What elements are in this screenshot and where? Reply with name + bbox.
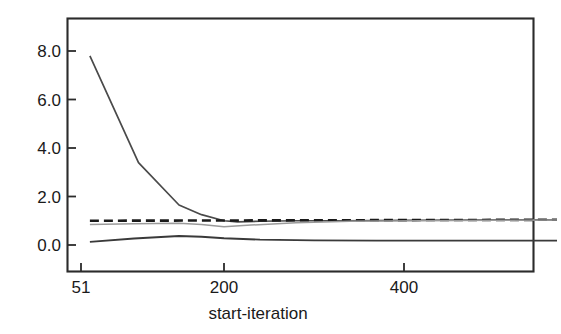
chart-figure: 0.0 2.0 4.0 6.0 8.0 51 200 400 start-ite… [0,0,561,334]
x-tick-label-400: 400 [390,278,418,297]
x-tick-label-200: 200 [210,278,238,297]
y-tick-label-2: 2.0 [37,188,61,207]
x-tick-label-51: 51 [72,278,91,297]
y-tick-label-6: 6.0 [37,91,61,110]
line-chart-plot: 0.0 2.0 4.0 6.0 8.0 51 200 400 start-ite… [0,0,561,334]
y-tick-label-4: 4.0 [37,139,61,158]
x-axis-title: start-iteration [208,304,307,323]
y-tick-label-8: 8.0 [37,42,61,61]
y-tick-label-0: 0.0 [37,236,61,255]
